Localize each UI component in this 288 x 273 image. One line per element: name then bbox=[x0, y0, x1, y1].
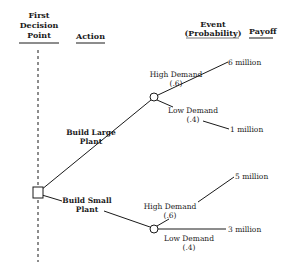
decision-node-square bbox=[33, 187, 43, 198]
event-large-low: Low Demand (.4) bbox=[166, 106, 220, 124]
event-large-low-label: Low Demand bbox=[166, 106, 220, 115]
action-build-small-line1: Build Small bbox=[58, 196, 116, 205]
event-large-low-prob: (.4) bbox=[166, 115, 220, 124]
event-small-high-label: High Demand bbox=[142, 202, 198, 211]
action-build-large-line1: Build Large bbox=[62, 128, 120, 137]
chance-node-small bbox=[150, 225, 158, 233]
event-small-low-label: Low Demand bbox=[162, 234, 216, 243]
header-payoff: Payoff bbox=[249, 27, 277, 36]
action-build-small-line2: Plant bbox=[58, 205, 116, 214]
payoff-large-low: 1 million bbox=[230, 125, 263, 134]
payoff-large-high: 6 million bbox=[228, 58, 261, 67]
action-build-small-label: Build Small Plant bbox=[58, 196, 116, 214]
header-action: Action bbox=[76, 32, 105, 41]
event-small-low-prob: (.4) bbox=[162, 243, 216, 252]
header-decision-line1: First bbox=[18, 10, 60, 20]
branch-small-high-2 bbox=[198, 177, 234, 202]
payoff-small-low: 3 million bbox=[228, 225, 261, 234]
chance-node-large bbox=[150, 93, 158, 101]
branch-small-high bbox=[157, 219, 169, 226]
action-build-large-line2: Plant bbox=[62, 137, 120, 146]
header-decision-line2: Decision bbox=[18, 20, 60, 30]
event-large-high-label: High Demand bbox=[148, 70, 204, 79]
header-event: Event (Probability) bbox=[184, 20, 242, 38]
event-large-high: High Demand (.6) bbox=[148, 70, 204, 88]
event-small-high-prob: (.6) bbox=[142, 211, 198, 220]
event-small-high: High Demand (.6) bbox=[142, 202, 198, 220]
header-decision-line3: Point bbox=[18, 30, 60, 40]
event-large-high-prob: (.6) bbox=[148, 79, 204, 88]
event-small-low: Low Demand (.4) bbox=[162, 234, 216, 252]
payoff-small-high: 5 million bbox=[235, 172, 268, 181]
header-event-line2: (Probability) bbox=[184, 29, 242, 38]
action-build-large-label: Build Large Plant bbox=[62, 128, 120, 146]
header-decision-point: First Decision Point bbox=[18, 10, 60, 40]
